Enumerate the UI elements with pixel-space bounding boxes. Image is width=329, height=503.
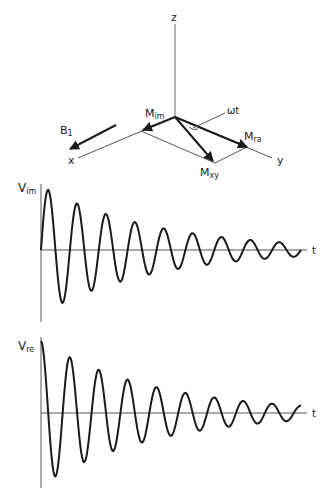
v-im-waveform: [41, 190, 301, 303]
angle-pointer: [193, 113, 225, 128]
m-im-label: Mim: [145, 107, 165, 121]
z-axis-label: z: [171, 11, 177, 24]
m-ra-vector: [175, 117, 247, 147]
vector-diagram: z x y Mim Mra Mxy B1 ωt: [60, 11, 284, 180]
parallelogram-edge-2: [215, 147, 247, 163]
omega-t-label: ωt: [227, 105, 239, 116]
v-im-label: Vim: [18, 181, 36, 196]
m-ra-label: Mra: [244, 130, 262, 144]
b1-label: B1: [60, 124, 73, 138]
v-re-t-label: t: [312, 408, 316, 419]
m-xy-label: Mxy: [200, 166, 219, 180]
v-re-label: Vre: [18, 339, 34, 354]
figure-canvas: z x y Mim Mra Mxy B1 ωt Vim t Vre t: [0, 0, 329, 503]
v-re-waveform: [41, 341, 301, 476]
b1-vector: [70, 125, 116, 149]
v-im-plot: Vim t: [18, 181, 316, 322]
v-re-plot: Vre t: [18, 337, 316, 488]
parallelogram-edge-1: [141, 131, 215, 163]
y-axis-label: y: [277, 154, 284, 167]
v-im-t-label: t: [312, 245, 316, 256]
x-axis-label: x: [68, 154, 75, 167]
